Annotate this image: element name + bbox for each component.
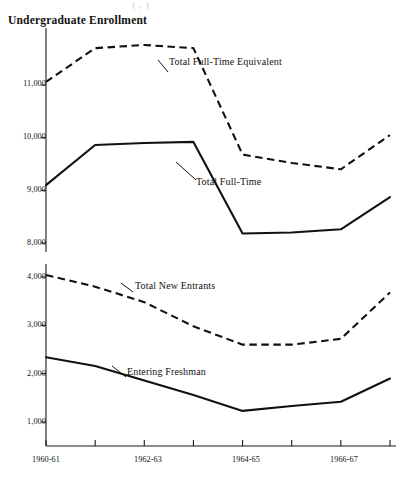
series-label-entering-freshman: Entering Freshman — [127, 366, 206, 377]
series-label-new-entrants: Total New Entrants — [135, 280, 215, 291]
leader-line-2 — [121, 283, 133, 292]
leader-line-1 — [176, 162, 196, 180]
upper-ytick-label-2: 9,000 — [2, 185, 46, 194]
lower-ytick-label-0: 4,000 — [2, 272, 46, 281]
upper-ytick-label-1: 10,000 — [2, 132, 46, 141]
xtick-label-2: 1964-65 — [214, 455, 278, 464]
axes-layer — [41, 28, 396, 446]
xtick-label-3: 1966-67 — [312, 455, 376, 464]
lower-ytick-label-2: 2,000 — [2, 369, 46, 378]
xtick-label-1: 1962-63 — [116, 455, 180, 464]
leader-line-0 — [158, 60, 168, 72]
upper-ytick-label-3: 8,000 — [2, 238, 46, 247]
series-layer — [46, 45, 390, 411]
upper-series-1 — [46, 142, 390, 234]
series-label-full-time-equivalent: Total Full-Time Equivalent — [169, 56, 282, 67]
lower-series-1 — [46, 357, 390, 411]
series-label-full-time: Total Full-Time — [196, 176, 261, 187]
upper-ytick-label-0: 11,000 — [2, 79, 46, 88]
lower-series-0 — [46, 275, 390, 345]
xtick-label-0: 1960-61 — [14, 455, 78, 464]
lower-ytick-label-3: 1,000 — [2, 417, 46, 426]
leader-lines — [112, 60, 196, 377]
lower-ytick-label-1: 3,000 — [2, 320, 46, 329]
chart-figure: 11,000 10,000 9,000 8,000 4,000 3,000 2,… — [0, 0, 401, 481]
chart-canvas — [0, 0, 401, 481]
